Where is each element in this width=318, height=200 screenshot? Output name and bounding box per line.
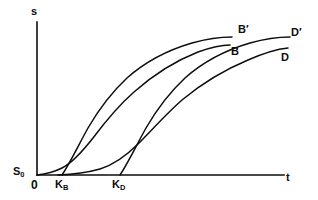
curve-label-d-prime-base: D bbox=[291, 26, 299, 38]
curve-d bbox=[58, 48, 288, 175]
curve-label-d-prime-mark: ′ bbox=[299, 26, 302, 38]
tick-kd-base: K bbox=[112, 178, 120, 190]
origin-label: 0 bbox=[31, 179, 38, 191]
chart-canvas bbox=[0, 0, 318, 200]
s-zero-subscript: 0 bbox=[20, 170, 24, 179]
tick-kb-subscript: B bbox=[63, 183, 68, 192]
curve-label-b-prime-mark: ′ bbox=[246, 23, 249, 35]
s-zero-label: S0 bbox=[13, 166, 25, 177]
tick-label-kb: KB bbox=[55, 179, 68, 190]
curve-label-b-prime: B′ bbox=[238, 24, 249, 35]
tick-label-kd: KD bbox=[112, 179, 125, 190]
curve-b-prime bbox=[62, 37, 232, 175]
curve-label-b-prime-base: B bbox=[238, 23, 246, 35]
curve-label-d: D bbox=[281, 52, 289, 63]
y-axis-label: s bbox=[31, 6, 37, 17]
figure-container: s t S0 0 KB KD B′ B D′ D bbox=[0, 0, 318, 200]
x-axis-label: t bbox=[286, 172, 290, 183]
tick-kd-subscript: D bbox=[120, 183, 125, 192]
curve-label-b: B bbox=[231, 46, 239, 57]
curve-d-prime bbox=[120, 37, 290, 175]
tick-kb-base: K bbox=[55, 178, 63, 190]
curve-label-d-prime: D′ bbox=[291, 27, 302, 38]
curve-b bbox=[37, 45, 230, 175]
